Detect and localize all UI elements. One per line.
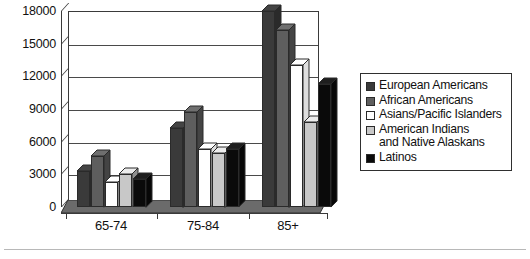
legend-item-latinos: Latinos: [366, 151, 507, 165]
x-tick-0: [66, 213, 67, 219]
x-axis-label-85: 85+: [258, 219, 318, 232]
x-axis-label-6574: 65-74: [81, 219, 141, 232]
legend-label-asians-pacific-islanders: Asians/Pacific Islanders: [379, 108, 502, 122]
legend-label-american-indians-line1: American Indians: [379, 122, 469, 136]
legend-swatch-european-americans: [366, 82, 375, 91]
legend: European Americans African Americans Asi…: [360, 73, 512, 171]
x-tick-1: [157, 213, 158, 219]
legend-label-latinos: Latinos: [379, 151, 417, 165]
legend-label-european-americans: European Americans: [379, 79, 488, 93]
legend-label-african-americans: African Americans: [379, 94, 473, 108]
x-tick-3: [327, 213, 328, 219]
legend-label-american-indians: American Indiansand Native Alaskans: [379, 123, 485, 150]
chart-screenshot: 1800015000120009000600030000 65-7475-848…: [0, 0, 530, 259]
legend-item-asians-pacific-islanders: Asians/Pacific Islanders: [366, 108, 507, 122]
x-axis-label-7584: 75-84: [173, 219, 233, 232]
legend-label-american-indians-line2: and Native Alaskans: [379, 136, 485, 150]
legend-swatch-american-indians: [366, 126, 375, 135]
x-tick-2: [249, 213, 250, 219]
legend-swatch-asians-pacific-islanders: [366, 111, 375, 120]
legend-swatch-latinos: [366, 154, 375, 163]
legend-item-american-indians: American Indiansand Native Alaskans: [366, 123, 507, 150]
legend-item-european-americans: European Americans: [366, 79, 507, 93]
legend-item-african-americans: African Americans: [366, 94, 507, 108]
bottom-divider: [4, 249, 526, 250]
legend-swatch-african-americans: [366, 97, 375, 106]
